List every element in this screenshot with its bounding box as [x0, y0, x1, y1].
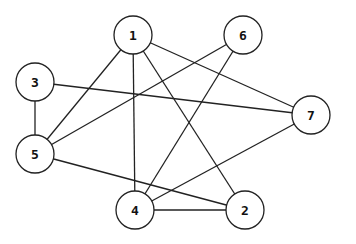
edge-6-4	[135, 35, 243, 210]
node-label: 4	[131, 203, 139, 218]
node-label: 5	[31, 147, 39, 162]
nodes-layer: 1234567	[16, 16, 330, 229]
node-6: 6	[224, 16, 262, 54]
node-label: 6	[239, 28, 247, 43]
node-4: 4	[116, 191, 154, 229]
node-label: 1	[129, 28, 137, 43]
edge-1-4	[133, 35, 135, 210]
graph-diagram: 1234567	[0, 0, 356, 244]
node-label: 7	[307, 108, 315, 123]
node-5: 5	[16, 135, 54, 173]
node-2: 2	[226, 191, 264, 229]
node-7: 7	[292, 96, 330, 134]
node-label: 3	[31, 75, 39, 90]
edge-4-7	[135, 115, 311, 210]
node-1: 1	[114, 16, 152, 54]
node-label: 2	[241, 203, 249, 218]
node-3: 3	[16, 63, 54, 101]
edge-3-7	[35, 82, 311, 115]
edges-layer	[35, 35, 311, 210]
